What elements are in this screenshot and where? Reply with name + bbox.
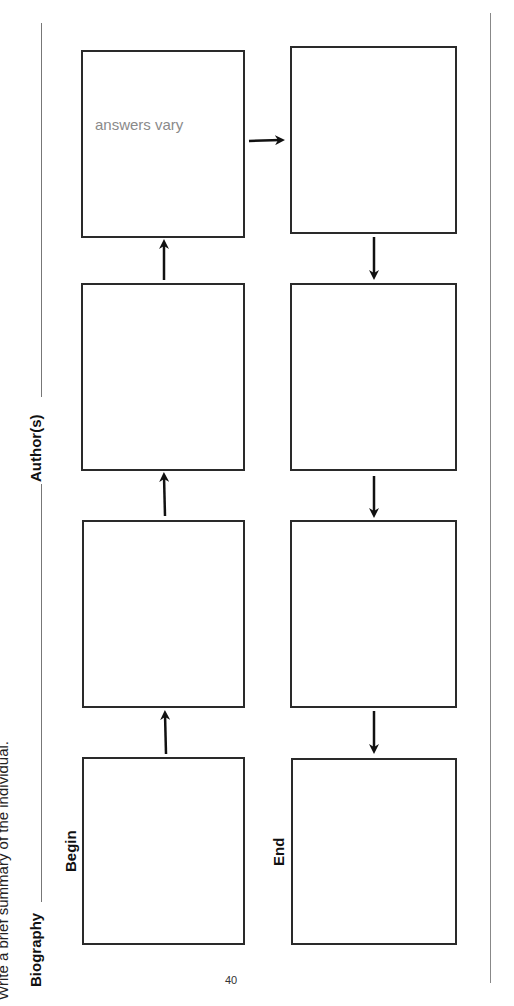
arrow-right-icon	[249, 140, 281, 141]
arrow-up-icon	[164, 476, 165, 516]
flow-arrows	[0, 0, 514, 1006]
page-number: 40	[225, 974, 237, 986]
arrow-up-icon	[165, 714, 166, 754]
